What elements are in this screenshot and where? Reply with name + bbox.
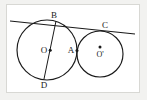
- label-point-A: A: [68, 45, 75, 55]
- label-center-O: O: [41, 45, 48, 55]
- tangent-line-BC: [10, 21, 135, 34]
- tangency-point-A-dot: [76, 49, 79, 52]
- label-center-O-prime: O': [96, 50, 104, 59]
- label-point-B: B: [51, 10, 57, 20]
- center-point-O-prime-dot: [99, 46, 102, 49]
- label-point-D: D: [41, 80, 48, 90]
- center-point-O-dot: [49, 49, 52, 52]
- label-point-C: C: [102, 20, 108, 30]
- geometry-figure-root: B C O A O' D: [0, 0, 147, 100]
- geometry-diagram-svg: B C O A O' D: [7, 5, 139, 92]
- figure-canvas: B C O A O' D: [6, 4, 140, 93]
